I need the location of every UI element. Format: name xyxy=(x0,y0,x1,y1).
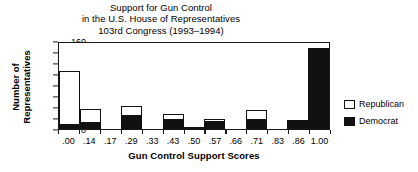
x-axis-tick-label: .57 xyxy=(209,136,222,146)
legend-swatch-democrat-icon xyxy=(344,117,355,126)
chart-title-line-1: Support for Gun Control xyxy=(0,2,322,13)
bar-segment-democrat xyxy=(287,121,308,129)
chart-title-line-2: in the U.S. House of Representatives xyxy=(0,13,322,24)
bar-slot xyxy=(101,43,122,129)
bar-slot xyxy=(204,43,225,129)
bar-slot xyxy=(287,43,308,129)
bar-segment-democrat xyxy=(204,121,225,129)
x-axis-tick-mark xyxy=(246,130,247,134)
bar-segment-democrat xyxy=(308,48,329,129)
bar-segment-republican xyxy=(121,106,142,115)
stacked-bar xyxy=(204,119,225,129)
legend-item-democrat: Democrat xyxy=(344,116,404,126)
bar-slot xyxy=(80,43,101,129)
x-axis-tick-label: .29 xyxy=(125,136,138,146)
x-axis-tick-label: .43 xyxy=(167,136,180,146)
x-axis-tick-mark xyxy=(121,130,122,134)
x-axis-tick-mark xyxy=(330,130,331,134)
bar-segment-republican xyxy=(80,109,101,122)
chart-legend: Republican Democrat xyxy=(344,99,404,133)
x-axis-tick-label: .33 xyxy=(146,136,159,146)
x-axis-tick-mark xyxy=(184,130,185,134)
x-axis-tick-label: .50 xyxy=(188,136,201,146)
chart-figure: Support for Gun Control in the U.S. Hous… xyxy=(0,0,418,172)
x-axis-tick-mark xyxy=(142,130,143,134)
x-axis-tick-label: .00 xyxy=(62,136,75,146)
stacked-bar xyxy=(80,109,101,129)
bar-slot xyxy=(142,43,163,129)
bar-slot xyxy=(267,43,288,129)
bar-slot xyxy=(184,43,205,129)
legend-label-democrat: Democrat xyxy=(359,116,398,126)
bar-segment-democrat xyxy=(163,119,184,129)
bar-slot xyxy=(121,43,142,129)
x-axis-tick-label: .14 xyxy=(83,136,96,146)
bar-slot xyxy=(163,43,184,129)
legend-swatch-republican-icon xyxy=(344,100,355,109)
x-axis-tick-mark xyxy=(58,130,59,134)
x-axis-tick-label: .71 xyxy=(251,136,264,146)
x-axis-tick-mark xyxy=(163,130,164,134)
stacked-bar xyxy=(59,71,80,129)
x-axis-tick-label: .86 xyxy=(292,136,305,146)
x-axis-tick-mark xyxy=(288,130,289,134)
bar-segment-democrat xyxy=(184,128,205,129)
bar-segment-republican xyxy=(59,71,80,123)
bar-slot xyxy=(225,43,246,129)
bar-series-container xyxy=(59,43,329,129)
x-axis-tick-mark xyxy=(204,130,205,134)
stacked-bar xyxy=(184,127,205,129)
bar-slot xyxy=(246,43,267,129)
plot-area xyxy=(58,42,330,130)
x-axis-tick-label: .66 xyxy=(230,136,243,146)
x-axis-tick-label: .83 xyxy=(271,136,284,146)
bar-slot xyxy=(308,43,329,129)
bar-segment-republican xyxy=(246,110,267,119)
bar-segment-democrat xyxy=(121,115,142,129)
x-axis-tick-mark xyxy=(225,130,226,134)
stacked-bar xyxy=(287,120,308,129)
stacked-bar xyxy=(308,48,329,129)
bar-segment-democrat xyxy=(59,124,80,130)
stacked-bar xyxy=(163,114,184,129)
legend-label-republican: Republican xyxy=(359,99,404,109)
stacked-bar xyxy=(246,110,267,129)
x-axis-tick-label: 1.00 xyxy=(311,136,329,146)
bar-segment-democrat xyxy=(246,119,267,129)
legend-item-republican: Republican xyxy=(344,99,404,109)
chart-title-line-3: 103rd Congress (1993–1994) xyxy=(0,25,322,36)
x-axis-tick-mark xyxy=(267,130,268,134)
y-axis-title-line-2: Representatives xyxy=(21,50,32,123)
x-axis-title: Gun Control Support Scores xyxy=(58,150,330,161)
x-axis-tick-mark xyxy=(309,130,310,134)
y-axis-title-line-1: Number of xyxy=(10,63,21,111)
stacked-bar xyxy=(121,106,142,129)
chart-title: Support for Gun Control in the U.S. Hous… xyxy=(0,2,322,36)
x-axis-tick-mark xyxy=(79,130,80,134)
bar-slot xyxy=(59,43,80,129)
bar-segment-democrat xyxy=(80,122,101,129)
x-axis-tick-mark xyxy=(100,130,101,134)
x-axis-tick-label: .17 xyxy=(104,136,117,146)
